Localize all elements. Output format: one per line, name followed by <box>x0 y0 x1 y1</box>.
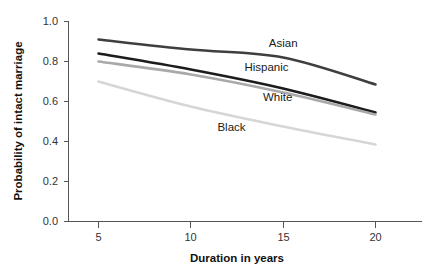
x-axis-title: Duration in years <box>190 252 284 264</box>
y-tick-label-1.0: 1.0 <box>43 15 58 27</box>
x-tick-label-15: 15 <box>277 231 289 243</box>
x-tick-label-20: 20 <box>369 231 381 243</box>
line-chart: 1.0 0.8 0.6 0.4 0.2 0.0 5 10 15 20 Durat… <box>0 0 431 269</box>
series-label-hispanic: Hispanic <box>244 61 288 73</box>
x-tick-label-5: 5 <box>95 231 101 243</box>
y-tick-label-0.6: 0.6 <box>43 95 58 107</box>
series-line-black <box>99 82 376 145</box>
x-axis-ticks <box>99 222 376 228</box>
y-tick-label-0.4: 0.4 <box>43 135 58 147</box>
series-label-asian: Asian <box>269 37 298 49</box>
y-tick-label-0.2: 0.2 <box>43 175 58 187</box>
chart-container: 1.0 0.8 0.6 0.4 0.2 0.0 5 10 15 20 Durat… <box>0 0 431 269</box>
x-tick-label-10: 10 <box>184 231 196 243</box>
y-tick-label-0.8: 0.8 <box>43 55 58 67</box>
y-axis-title: Probability of intact marriage <box>12 41 24 200</box>
series-label-black: Black <box>217 121 245 133</box>
series-label-white: White <box>263 91 292 103</box>
y-tick-label-0.0: 0.0 <box>43 215 58 227</box>
series-line-white <box>99 62 376 115</box>
y-axis-ticks <box>64 22 69 222</box>
